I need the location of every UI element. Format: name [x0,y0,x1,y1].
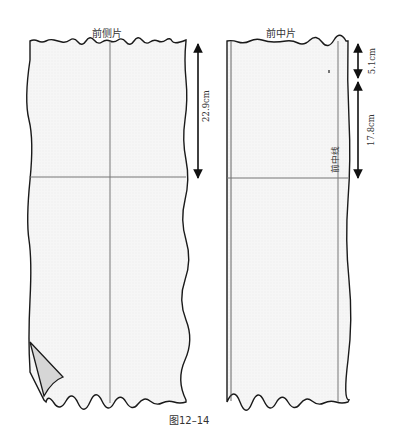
front-side-panel-title: 前侧片 [92,25,122,40]
center-front-line-label: 前中线 [328,146,340,173]
front-center-outline [227,35,351,410]
front-center-panel-title: 前中片 [266,25,296,40]
measure-label-22.9: 22.9cm [201,90,211,122]
figure-caption: 图12–14 [169,412,209,427]
front-side-panel [27,38,198,410]
measure-label-17.8: 17.8cm [366,114,376,146]
front-center-panel [227,35,358,410]
pattern-diagram [0,0,394,442]
measure-label-5.1: 5.1cm [367,48,377,74]
front-side-outline [27,38,190,410]
